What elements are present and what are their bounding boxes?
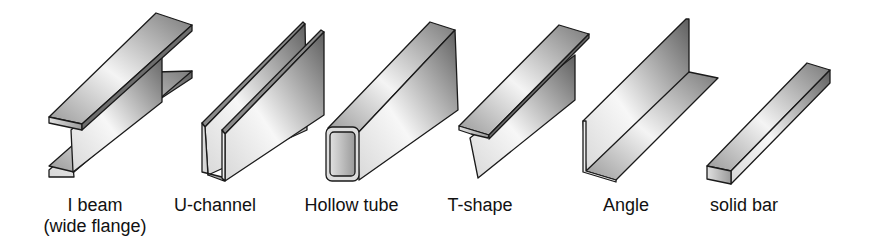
angle-icon [583,19,718,182]
solid-bar-icon [707,63,830,184]
angle-label: Angle [596,195,656,216]
t-shape-label: T-shape [441,195,519,216]
u-channel-icon [202,22,324,181]
i-beam-label: I beam (wide flange) [35,195,155,237]
solid-bar-label: solid bar [702,195,786,216]
i-beam-icon [49,13,192,177]
i-beam-label-line2: (wide flange) [35,216,155,237]
hollow-tube-icon [326,22,458,181]
u-channel-label: U-channel [163,195,267,216]
i-beam-label-line1: I beam [35,195,155,216]
t-shape-icon [459,25,589,178]
hollow-tube-label: Hollow tube [294,195,409,216]
